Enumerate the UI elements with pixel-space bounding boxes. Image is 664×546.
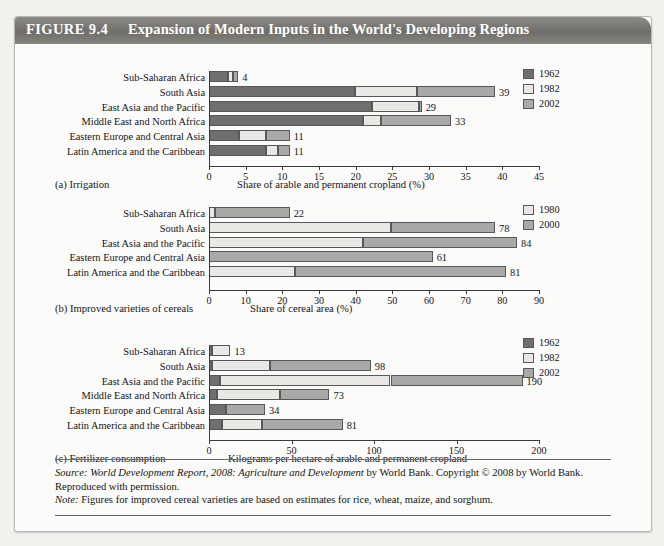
bar-value-label: 34 xyxy=(269,405,279,416)
axis-tick xyxy=(209,440,210,444)
category-label: Latin America and the Caribbean xyxy=(35,267,205,278)
x-axis-line xyxy=(209,166,539,167)
bar-segment-1982 xyxy=(220,375,391,386)
axis-tick xyxy=(246,290,247,294)
x-axis-line xyxy=(209,290,539,291)
bar-value-label: 81 xyxy=(347,420,357,431)
bar-segment-2000 xyxy=(295,266,506,277)
axis-tick xyxy=(429,166,430,170)
bar-segment-2002 xyxy=(278,145,290,156)
bar-segment-2002 xyxy=(419,101,422,112)
axis-tick xyxy=(292,440,293,444)
bar-segment-1980 xyxy=(209,237,363,248)
legend-label: 1982 xyxy=(539,352,560,364)
bar-segment-1982 xyxy=(217,389,280,400)
stacked-bar xyxy=(209,419,539,430)
bar-value-label: 33 xyxy=(455,116,465,127)
bar-segment-1982 xyxy=(222,419,262,430)
legend-label: 1962 xyxy=(539,337,560,349)
legend-item-1982: 1982 xyxy=(523,83,593,95)
axis-tick-label: 60 xyxy=(414,295,444,306)
stacked-bar xyxy=(209,345,539,356)
legend-item-1962: 1962 xyxy=(523,337,593,349)
stacked-bar xyxy=(209,404,539,415)
bar-segment-1962 xyxy=(209,71,228,82)
axis-tick xyxy=(246,166,247,170)
axis-tick-label: 0 xyxy=(194,445,224,456)
source-note: Source: World Development Report, 2008: … xyxy=(55,466,615,493)
bar-segment-1962 xyxy=(209,389,217,400)
axis-title-b: Share of cereal area (%) xyxy=(250,303,352,314)
bar-segment-1962 xyxy=(209,145,266,156)
bar-segment-2002 xyxy=(391,375,523,386)
legend-item-2002: 2002 xyxy=(523,367,593,379)
y-axis-line xyxy=(209,71,210,166)
stacked-bar xyxy=(209,207,539,218)
axis-tick-label: 35 xyxy=(451,171,481,182)
bar-value-label: 61 xyxy=(437,252,447,263)
bar-segment-2000 xyxy=(363,237,517,248)
bar-value-label: 84 xyxy=(521,238,531,249)
footer-bottom-divider xyxy=(55,515,611,516)
bar-value-label: 29 xyxy=(426,102,436,113)
category-label: Eastern Europe and Central Asia xyxy=(35,405,205,416)
stacked-bar xyxy=(209,251,539,262)
axis-tick xyxy=(466,290,467,294)
bar-segment-2002 xyxy=(280,389,330,400)
axis-tick xyxy=(282,166,283,170)
panel-caption-b: (b) Improved varieties of cereals xyxy=(55,303,193,314)
axis-tick xyxy=(209,166,210,170)
category-label: East Asia and the Pacific xyxy=(35,102,205,113)
category-label: East Asia and the Pacific xyxy=(35,238,205,249)
legend-swatch-2000 xyxy=(523,220,534,230)
legend-item-1980: 1980 xyxy=(523,204,593,216)
bar-segment-1962 xyxy=(209,404,226,415)
axis-tick xyxy=(374,440,375,444)
axis-tick-label: 90 xyxy=(524,295,554,306)
axis-tick xyxy=(319,290,320,294)
legend-swatch-1962 xyxy=(523,69,534,79)
category-label: South Asia xyxy=(35,361,205,372)
bar-segment-1980 xyxy=(209,222,391,233)
note-label: Note: xyxy=(55,494,79,505)
figure-titlebar: FIGURE 9.4 Expansion of Modern Inputs in… xyxy=(15,17,651,44)
bar-segment-2002 xyxy=(417,86,495,97)
figure-number: FIGURE 9.4 xyxy=(26,21,108,38)
bar-value-label: 98 xyxy=(375,361,385,372)
stacked-bar xyxy=(209,375,539,386)
axis-tick-label: 50 xyxy=(377,295,407,306)
bar-segment-2002 xyxy=(381,115,451,126)
bar-value-label: 11 xyxy=(294,146,304,157)
bar-segment-2002 xyxy=(233,71,238,82)
category-label: Latin America and the Caribbean xyxy=(35,146,205,157)
bar-segment-1982 xyxy=(355,86,417,97)
axis-tick xyxy=(502,290,503,294)
legend-swatch-2002 xyxy=(523,368,534,378)
axis-tick xyxy=(539,166,540,170)
legend-swatch-2002 xyxy=(523,99,534,109)
source-label: Source: xyxy=(55,467,88,478)
legend-item-2000: 2000 xyxy=(523,219,593,231)
bar-value-label: 39 xyxy=(499,87,509,98)
figure-page: FIGURE 9.4 Expansion of Modern Inputs in… xyxy=(0,0,664,546)
figure-frame: FIGURE 9.4 Expansion of Modern Inputs in… xyxy=(14,16,652,532)
bar-segment-2000 xyxy=(215,207,290,218)
note-text: Figures for improved cereal varieties ar… xyxy=(79,494,493,505)
legend-swatch-1980 xyxy=(523,205,534,215)
axis-tick-label: 200 xyxy=(524,445,554,456)
footer-divider xyxy=(55,459,611,460)
legend-a: 196219822002 xyxy=(523,68,593,113)
bar-value-label: 78 xyxy=(499,223,509,234)
axis-tick-label: 70 xyxy=(451,295,481,306)
category-label: East Asia and the Pacific xyxy=(35,376,205,387)
axis-tick xyxy=(356,166,357,170)
category-label: Middle East and North Africa xyxy=(35,116,205,127)
category-label: Middle East and North Africa xyxy=(35,390,205,401)
axis-tick xyxy=(319,166,320,170)
category-label: Sub-Saharan Africa xyxy=(35,346,205,357)
legend-item-2002: 2002 xyxy=(523,98,593,110)
category-label: Sub-Saharan Africa xyxy=(35,208,205,219)
panel-caption-a: (a) Irrigation xyxy=(55,179,109,190)
bar-value-label: 11 xyxy=(294,131,304,142)
bar-segment-2002 xyxy=(226,404,266,415)
